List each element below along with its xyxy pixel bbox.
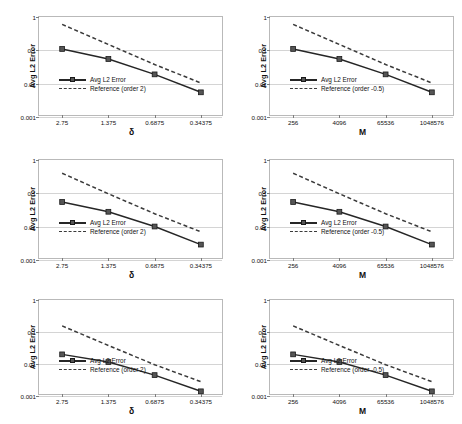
legend: Avg L2 ErrorReference (order 2) xyxy=(59,356,146,374)
y-tick-label: 1 xyxy=(264,157,267,164)
legend-item-series[interactable]: Avg L2 Error xyxy=(290,218,384,227)
legend-swatch-dashed-icon xyxy=(290,365,317,374)
y-tick-label: 0.001 xyxy=(252,114,267,121)
y-tick-label: 0.1 xyxy=(258,329,267,336)
y-tick-label: 1 xyxy=(33,14,36,21)
data-marker xyxy=(337,209,342,214)
legend-label: Avg L2 Error xyxy=(321,218,357,227)
data-marker xyxy=(198,389,203,394)
legend-label: Avg L2 Error xyxy=(321,75,357,84)
legend-swatch-dashed-icon xyxy=(59,365,86,374)
x-tick-label: 256 xyxy=(288,119,298,126)
chart-panel: Avg L2 Error10.10.010.001256409665536104… xyxy=(231,285,462,424)
x-tick-label: 1.375 xyxy=(101,398,116,405)
x-tick-label: 256 xyxy=(288,398,298,405)
y-tick-label: 0.001 xyxy=(21,393,36,400)
legend-item-reference[interactable]: Reference (order 2) xyxy=(59,227,146,236)
x-axis-title: δ xyxy=(129,127,134,137)
chart-panel: Avg L2 Error10.10.010.001256409665536104… xyxy=(231,145,462,285)
x-tick-label: 1.375 xyxy=(101,262,116,269)
legend-swatch-dashed-icon xyxy=(59,84,86,93)
legend-item-reference[interactable]: Reference (order -0.5) xyxy=(290,365,384,374)
y-tick-label: 0.1 xyxy=(27,329,36,336)
y-tick-label: 0.001 xyxy=(21,114,36,121)
legend-item-reference[interactable]: Reference (order 2) xyxy=(59,84,146,93)
series-layer xyxy=(39,300,224,396)
legend-item-reference[interactable]: Reference (order -0.5) xyxy=(290,227,384,236)
data-marker xyxy=(106,57,111,62)
legend-swatch-dashed-icon xyxy=(59,227,86,236)
legend-item-series[interactable]: Avg L2 Error xyxy=(290,356,384,365)
y-gridline xyxy=(39,396,222,397)
x-tick-label: 1048576 xyxy=(420,398,444,405)
y-tick-mark xyxy=(267,396,270,397)
legend: Avg L2 ErrorReference (order -0.5) xyxy=(290,218,384,236)
y-tick-mark xyxy=(36,396,39,397)
series-layer xyxy=(39,160,224,260)
chart-panel: Avg L2 Error10.10.010.0012.751.3750.6875… xyxy=(0,285,231,424)
x-tick-label: 0.34375 xyxy=(190,398,212,405)
legend-item-series[interactable]: Avg L2 Error xyxy=(290,75,384,84)
y-tick-label: 0.01 xyxy=(24,80,36,87)
legend-item-series[interactable]: Avg L2 Error xyxy=(59,356,146,365)
data-marker xyxy=(429,389,434,394)
x-axis-title: M xyxy=(359,127,366,137)
y-tick-label: 0.01 xyxy=(24,223,36,230)
x-tick-label: 65536 xyxy=(377,398,394,405)
y-tick-label: 0.01 xyxy=(255,223,267,230)
y-tick-label: 0.001 xyxy=(252,257,267,264)
x-tick-label: 0.34375 xyxy=(190,262,212,269)
legend: Avg L2 ErrorReference (order -0.5) xyxy=(290,356,384,374)
x-tick-label: 1.375 xyxy=(101,119,116,126)
data-marker xyxy=(152,72,157,77)
y-gridline xyxy=(270,260,453,261)
y-tick-label: 0.001 xyxy=(252,393,267,400)
plot-area: 10.10.010.0012.751.3750.68750.34375δAvg … xyxy=(38,16,223,116)
legend-label: Avg L2 Error xyxy=(90,75,126,84)
y-tick-label: 0.1 xyxy=(27,47,36,54)
legend-label: Reference (order 2) xyxy=(90,84,146,93)
x-tick-label: 2.75 xyxy=(56,398,68,405)
legend-label: Reference (order 2) xyxy=(90,227,146,236)
y-gridline xyxy=(39,260,222,261)
x-tick-label: 256 xyxy=(288,262,298,269)
legend: Avg L2 ErrorReference (order -0.5) xyxy=(290,75,384,93)
data-marker xyxy=(429,90,434,95)
series-layer xyxy=(39,17,224,117)
legend-label: Reference (order -0.5) xyxy=(321,84,384,93)
legend-item-reference[interactable]: Reference (order -0.5) xyxy=(290,84,384,93)
chart-panel: Avg L2 Error10.10.010.0012.751.3750.6875… xyxy=(0,145,231,285)
x-tick-label: 0.6875 xyxy=(145,119,164,126)
figure-grid: Avg L2 Error10.10.010.0012.751.3750.6875… xyxy=(0,0,462,424)
x-tick-label: 65536 xyxy=(377,119,394,126)
data-marker xyxy=(60,200,65,205)
legend-item-reference[interactable]: Reference (order 2) xyxy=(59,365,146,374)
plot-area: 10.10.010.0012564096655361048576MAvg L2 … xyxy=(269,299,454,395)
legend-label: Reference (order -0.5) xyxy=(321,227,384,236)
legend-swatch-solid-icon xyxy=(59,218,86,227)
x-tick-label: 0.6875 xyxy=(145,398,164,405)
data-marker xyxy=(198,90,203,95)
x-tick-label: 65536 xyxy=(377,262,394,269)
legend-label: Avg L2 Error xyxy=(90,218,126,227)
y-tick-label: 0.01 xyxy=(255,361,267,368)
x-tick-label: 0.34375 xyxy=(190,119,212,126)
x-tick-label: 4096 xyxy=(332,398,346,405)
y-tick-label: 0.01 xyxy=(24,361,36,368)
data-marker xyxy=(291,47,296,52)
series-layer xyxy=(270,17,455,117)
plot-area: 10.10.010.0012.751.3750.68750.34375δAvg … xyxy=(38,299,223,395)
legend-swatch-dashed-icon xyxy=(290,227,317,236)
legend-item-series[interactable]: Avg L2 Error xyxy=(59,218,146,227)
y-tick-label: 0.01 xyxy=(255,80,267,87)
x-axis-title: δ xyxy=(129,406,134,416)
y-tick-label: 0.1 xyxy=(258,190,267,197)
chart-panel: Avg L2 Error10.10.010.001256409665536104… xyxy=(231,0,462,145)
data-marker xyxy=(106,209,111,214)
y-tick-mark xyxy=(36,117,39,118)
legend-item-series[interactable]: Avg L2 Error xyxy=(59,75,146,84)
x-tick-label: 1048576 xyxy=(420,262,444,269)
plot-area: 10.10.010.0012.751.3750.68750.34375δAvg … xyxy=(38,159,223,259)
legend-swatch-solid-icon xyxy=(59,356,86,365)
y-tick-mark xyxy=(267,260,270,261)
